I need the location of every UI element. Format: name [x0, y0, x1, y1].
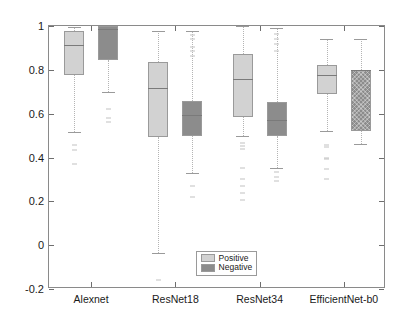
outlier-marker [240, 179, 245, 180]
outlier-marker [324, 159, 329, 160]
legend-item-positive: Positive [201, 254, 253, 263]
whisker-upper [243, 26, 244, 54]
outlier-marker [240, 149, 245, 150]
x-tick-mark [91, 282, 92, 287]
y-tick-mark-right [379, 245, 384, 246]
outlier-marker [324, 168, 329, 169]
x-tick-mark-top [91, 26, 92, 31]
box-iqr [98, 26, 118, 60]
outlier-marker [106, 121, 111, 122]
cap-upper [236, 26, 249, 27]
outlier-marker [240, 142, 245, 143]
y-tick-mark [49, 289, 54, 290]
y-tick-mark-right [379, 114, 384, 115]
outlier-marker [190, 46, 195, 47]
whisker-upper [361, 39, 362, 70]
outlier-marker [240, 185, 245, 186]
y-tick-mark-right [379, 158, 384, 159]
outlier-marker [190, 34, 195, 35]
y-tick-label: 0.8 [29, 64, 44, 76]
y-tick-mark-right [379, 201, 384, 202]
x-tick-mark-top [344, 26, 345, 31]
median-line [182, 115, 202, 116]
y-tick-label: 0.6 [29, 108, 44, 120]
x-tick-mark [175, 282, 176, 287]
median-line [64, 45, 84, 46]
whisker-upper [192, 31, 193, 100]
outlier-marker [324, 146, 329, 147]
y-tick-label: 1 [38, 20, 44, 32]
cap-lower [354, 144, 367, 145]
cap-upper [270, 28, 283, 29]
x-tick-mark-top [175, 26, 176, 31]
outlier-marker [190, 51, 195, 52]
box-iqr [351, 70, 371, 131]
outlier-marker [274, 43, 279, 44]
cap-lower [236, 136, 249, 137]
x-tick-mark [344, 282, 345, 287]
cap-upper [186, 31, 199, 32]
outlier-marker [274, 180, 279, 181]
y-tick-label: 0 [38, 239, 44, 251]
outlier-marker [240, 168, 245, 169]
whisker-lower [74, 75, 75, 132]
box-iqr [317, 65, 337, 93]
x-tick-mark-top [260, 26, 261, 31]
whisker-lower [327, 94, 328, 131]
box-iqr [233, 54, 253, 117]
median-line [148, 88, 168, 89]
outlier-marker [190, 56, 195, 57]
whisker-lower [108, 60, 109, 92]
box-iqr [148, 62, 168, 137]
outlier-marker [324, 179, 329, 180]
cap-upper [152, 31, 165, 32]
whisker-lower [158, 137, 159, 253]
y-tick-mark [49, 201, 54, 202]
y-tick-label: 0.2 [29, 195, 44, 207]
cap-lower [68, 132, 81, 133]
cap-lower [270, 168, 283, 169]
whisker-lower [361, 131, 362, 144]
outlier-marker [106, 118, 111, 119]
cap-lower [152, 253, 165, 254]
outlier-marker [240, 200, 245, 201]
cap-upper [320, 39, 333, 40]
cap-upper [68, 27, 81, 28]
outlier-marker [72, 163, 77, 164]
x-tick-label-resnet18: ResNet18 [152, 293, 199, 305]
cap-lower [186, 173, 199, 174]
whisker-upper [327, 39, 328, 65]
outlier-marker [274, 172, 279, 173]
cap-lower [320, 131, 333, 132]
whisker-upper [158, 31, 159, 62]
outlier-marker [240, 146, 245, 147]
outlier-marker [156, 279, 161, 280]
whisker-lower [277, 136, 278, 168]
median-line [351, 70, 371, 71]
median-line [233, 79, 253, 80]
box-iqr [267, 102, 287, 136]
plot-area: 10.80.60.40.20-0.2 AlexnetResNet18ResNet… [48, 25, 385, 288]
outlier-marker [190, 39, 195, 40]
outlier-marker [274, 177, 279, 178]
y-tick-mark [49, 158, 54, 159]
median-line [267, 120, 287, 121]
y-tick-label: -0.2 [25, 283, 44, 295]
cap-lower [102, 92, 115, 93]
whisker-lower [243, 117, 244, 136]
median-line [98, 29, 118, 30]
median-line [317, 75, 337, 76]
legend-item-negative: Negative [201, 263, 253, 272]
legend-swatch-negative [201, 264, 215, 272]
figure: Correlation Coefficient 10.80.60.40.20-0… [0, 0, 401, 311]
outlier-marker [240, 193, 245, 194]
x-tick-mark [260, 282, 261, 287]
outlier-marker [274, 39, 279, 40]
legend-label-positive: Positive [219, 254, 249, 263]
outlier-marker [106, 109, 111, 110]
whisker-lower [192, 136, 193, 173]
x-tick-label-efficientnet-b0: EfficientNet-b0 [310, 293, 379, 305]
cap-upper [354, 39, 367, 40]
outlier-marker [72, 150, 77, 151]
box-iqr [64, 31, 84, 75]
